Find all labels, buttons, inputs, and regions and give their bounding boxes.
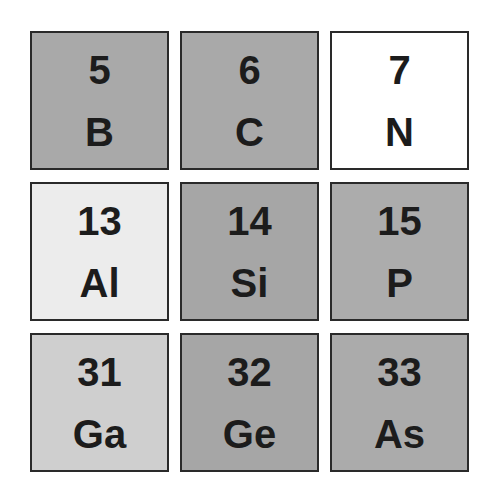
element-cell-silicon: 14 Si xyxy=(180,182,319,321)
element-symbol: C xyxy=(235,112,264,152)
element-symbol: Ge xyxy=(223,414,276,454)
element-symbol: Ga xyxy=(73,414,126,454)
atomic-number: 13 xyxy=(77,201,122,241)
element-cell-carbon: 6 C xyxy=(180,31,319,170)
atomic-number: 31 xyxy=(77,352,122,392)
element-symbol: P xyxy=(386,263,413,303)
element-cell-aluminum: 13 Al xyxy=(30,182,169,321)
atomic-number: 6 xyxy=(238,50,260,90)
element-cell-nitrogen: 7 N xyxy=(330,31,469,170)
atomic-number: 14 xyxy=(227,201,272,241)
element-symbol: N xyxy=(385,112,414,152)
atomic-number: 5 xyxy=(88,50,110,90)
atomic-number: 33 xyxy=(377,352,422,392)
element-cell-arsenic: 33 As xyxy=(330,333,469,472)
element-symbol: B xyxy=(85,112,114,152)
element-cell-gallium: 31 Ga xyxy=(30,333,169,472)
element-symbol: Al xyxy=(80,263,120,303)
atomic-number: 32 xyxy=(227,352,272,392)
element-symbol: As xyxy=(374,414,425,454)
atomic-number: 15 xyxy=(377,201,422,241)
element-cell-phosphorus: 15 P xyxy=(330,182,469,321)
element-symbol: Si xyxy=(231,263,269,303)
element-cell-boron: 5 B xyxy=(30,31,169,170)
periodic-table-grid: 5 B 6 C 7 N 13 Al 14 Si 15 P 31 Ga 32 Ge… xyxy=(30,31,469,472)
atomic-number: 7 xyxy=(388,50,410,90)
element-cell-germanium: 32 Ge xyxy=(180,333,319,472)
